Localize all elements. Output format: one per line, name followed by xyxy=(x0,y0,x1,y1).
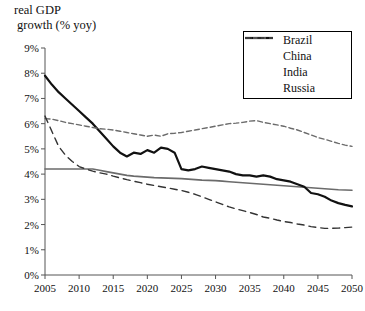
y-axis-tick-label: 1% xyxy=(24,244,39,256)
x-axis-tick-label: 2015 xyxy=(102,282,125,294)
x-axis-tick-label: 2030 xyxy=(205,282,228,294)
x-axis-tick-label: 2020 xyxy=(136,282,159,294)
y-axis-tick-label: 0% xyxy=(24,269,39,281)
x-axis-tick-label: 2010 xyxy=(68,282,91,294)
legend-item-russia[interactable]: Russia xyxy=(244,80,351,96)
legend-label-china: China xyxy=(283,50,312,62)
y-axis-tick-label: 6% xyxy=(24,118,39,130)
legend-swatch-china xyxy=(248,50,278,62)
legend-swatch-india xyxy=(248,66,278,78)
y-axis-tick-label: 8% xyxy=(24,67,39,79)
x-axis-tick-label: 2005 xyxy=(34,282,57,294)
legend-item-china[interactable]: China xyxy=(244,48,351,64)
chart-legend: BrazilChinaIndiaRussia xyxy=(243,31,352,99)
gdp-growth-chart: real GDP growth (% yoy) 0%1%2%3%4%5%6%7%… xyxy=(0,0,365,311)
y-axis-tick-label: 7% xyxy=(24,92,39,104)
x-axis-tick-label: 2050 xyxy=(341,282,364,294)
y-axis-tick-label: 5% xyxy=(24,143,39,155)
legend-swatch-russia xyxy=(248,82,278,94)
y-axis-tick-label: 2% xyxy=(24,219,39,231)
y-axis-tick-label: 3% xyxy=(24,193,39,205)
x-axis-tick-label: 2035 xyxy=(239,282,262,294)
x-axis-tick-label: 2025 xyxy=(170,282,193,294)
legend-label-india: India xyxy=(283,66,308,78)
x-axis-tick-label: 2045 xyxy=(307,282,330,294)
y-axis-tick-label: 4% xyxy=(24,168,39,180)
legend-item-india[interactable]: India xyxy=(244,64,351,80)
legend-label-brazil: Brazil xyxy=(283,34,312,46)
y-axis-tick-label: 9% xyxy=(24,42,39,54)
legend-label-russia: Russia xyxy=(283,82,315,94)
x-axis-tick-label: 2040 xyxy=(273,282,296,294)
